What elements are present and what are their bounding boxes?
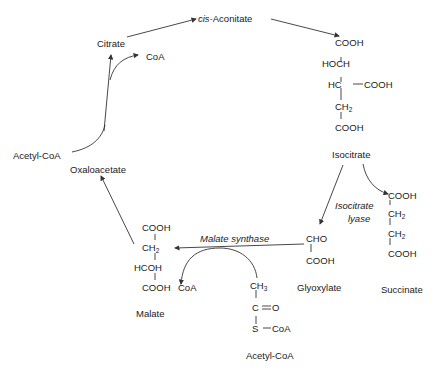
- arrow-aconitate-to-isocitrate: [271, 19, 339, 36]
- acetyl-c: C: [252, 302, 259, 313]
- malate-hcoh: HCOH: [134, 262, 162, 273]
- isocitrate-ch2: CH2: [335, 101, 352, 115]
- arrow-oxaloacetate-to-citrate: [104, 55, 111, 131]
- cis-aconitate-label: cis-Aconitate: [198, 13, 252, 24]
- arrow-glyoxylate-to-malate: [175, 244, 304, 248]
- glyoxylate-cho: CHO: [306, 233, 327, 244]
- acetyl-coa-left-label: Acetyl-CoA: [13, 150, 61, 161]
- cis-prefix: cis-: [198, 13, 213, 24]
- acetyl-o: O: [272, 302, 279, 313]
- isocitrate-label: Isocitrate: [332, 149, 371, 160]
- isocitrate-cooh-bottom: COOH: [335, 122, 364, 133]
- isocitrate-lyase-label-2: lyase: [348, 213, 370, 224]
- succinate-cooh-bottom: COOH: [388, 248, 417, 259]
- malate-cooh-top: COOH: [142, 222, 171, 233]
- succinate-ch2-1: CH2: [388, 208, 405, 222]
- malate-cooh-bottom: COOH: [142, 282, 171, 293]
- pathway-arrows: [0, 0, 436, 371]
- arrow-acetyl-coa-to-coa: [181, 248, 257, 284]
- glyoxylate-cooh: COOH: [306, 255, 335, 266]
- aconitate-text: Aconitate: [213, 13, 253, 24]
- acetyl-coa-group: CoA: [272, 323, 290, 334]
- arrow-citrate-to-aconitate: [127, 19, 196, 37]
- coa-top-label: CoA: [146, 51, 164, 62]
- succinate-label: Succinate: [381, 284, 423, 295]
- isocitrate-cooh-top: COOH: [335, 37, 364, 48]
- acetyl-s: S: [252, 323, 258, 334]
- isocitrate-lyase-label-1: Isocitrate: [335, 200, 374, 211]
- succinate-cooh-top: COOH: [388, 190, 417, 201]
- glyoxylate-label: Glyoxylate: [297, 282, 341, 293]
- succinate-ch2-2: CH2: [388, 228, 405, 242]
- oxaloacetate-label: Oxaloacetate: [70, 164, 126, 175]
- malate-label: Malate: [136, 308, 165, 319]
- acetyl-coa-input-curve: [72, 125, 105, 152]
- arrow-coa-release: [110, 55, 138, 80]
- acetyl-coa-bottom-label: Acetyl-CoA: [246, 350, 294, 361]
- malate-synthase-label: Malate synthase: [200, 233, 269, 244]
- citrate-label: Citrate: [97, 38, 125, 49]
- arrow-isocitrate-to-succinate: [363, 164, 388, 194]
- arrow-malate-to-oxaloacetate: [101, 176, 134, 244]
- isocitrate-hoch: HOCH: [322, 58, 350, 69]
- isocitrate-hc: HC: [328, 79, 342, 90]
- arrow-isocitrate-to-glyoxylate: [320, 165, 343, 224]
- acetyl-ch3: CH3: [250, 280, 267, 294]
- malate-ch2: CH2: [142, 242, 159, 256]
- coa-bottom-label: CoA: [178, 282, 196, 293]
- isocitrate-cooh-side: COOH: [364, 79, 393, 90]
